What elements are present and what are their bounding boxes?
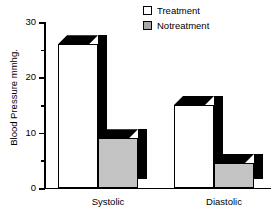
bar-front-face — [214, 163, 254, 188]
bar-systolic-treatment — [58, 44, 98, 188]
plot-area — [44, 22, 270, 188]
bar-chart: 30 20 10 0 Blood Pressure mmhg. — [0, 0, 276, 218]
bar-front-face — [98, 138, 138, 188]
bar-diastolic-notreatment — [214, 163, 254, 188]
legend-item-treatment: Treatment — [143, 3, 209, 17]
bar-diastolic-treatment — [174, 105, 214, 188]
legend-swatch-icon — [143, 21, 152, 30]
y-tick-label-0: 0 — [10, 182, 36, 193]
legend-label-treatment: Treatment — [157, 5, 200, 16]
category-label-systolic: Systolic — [68, 196, 148, 207]
bar-side-face — [138, 129, 147, 179]
legend-label-notreatment: Notreatment — [157, 20, 209, 31]
bar-top-face — [174, 96, 214, 105]
legend-item-notreatment: Notreatment — [143, 18, 209, 32]
bar-top-face — [58, 35, 98, 44]
legend-swatch-icon — [143, 6, 152, 15]
y-tick-label-30: 30 — [10, 16, 36, 27]
bar-side-face — [254, 154, 263, 179]
bar-front-face — [58, 44, 98, 188]
bar-front-face — [174, 105, 214, 188]
legend: Treatment Notreatment — [143, 3, 209, 33]
y-axis-title: Blood Pressure mmhg. — [8, 33, 19, 163]
bar-systolic-notreatment — [98, 138, 138, 188]
category-label-diastolic: Diastolic — [184, 196, 264, 207]
